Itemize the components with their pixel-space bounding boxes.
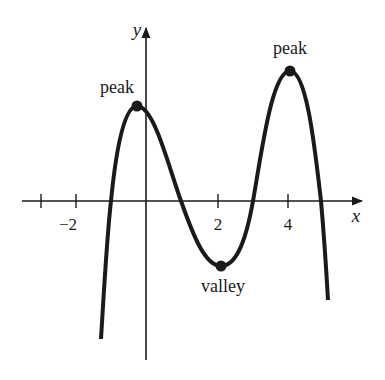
peak-left-label: peak <box>100 77 134 97</box>
x-axis-label: x <box>351 205 361 226</box>
peak-right-label: peak <box>273 38 307 58</box>
tick-label-4: 4 <box>284 215 293 234</box>
tick-label-2: 2 <box>214 215 223 234</box>
function-curve <box>101 71 328 339</box>
function-graph: −2 2 4 x y peak peak valley <box>0 0 385 380</box>
peak-left-dot <box>132 101 143 112</box>
y-axis-label: y <box>131 19 142 40</box>
tick-label-neg2: −2 <box>59 215 77 234</box>
peak-right-dot <box>285 66 296 77</box>
valley-dot <box>216 261 227 272</box>
valley-label: valley <box>201 276 245 296</box>
